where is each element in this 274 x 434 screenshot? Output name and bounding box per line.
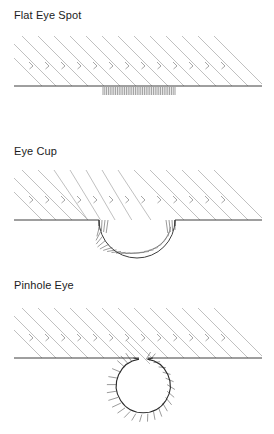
photoreceptor-layer-cup — [96, 220, 175, 254]
eye-evolution-diagram: Flat Eye Spot — [0, 0, 274, 434]
eye-cup-illustration — [0, 134, 274, 268]
photoreceptor-layer-chamber — [107, 352, 175, 422]
panel-eye-cup: Eye Cup — [0, 134, 274, 268]
panel-flat-eye-spot: Flat Eye Spot — [0, 0, 274, 134]
flat-eye-spot-illustration — [0, 0, 274, 134]
light-ray-field — [14, 308, 262, 358]
pinhole-eye-illustration — [0, 268, 274, 434]
panel-pinhole-eye: Pinhole Eye — [0, 268, 274, 434]
photoreceptor-patch — [103, 87, 175, 95]
light-ray-field — [14, 36, 262, 86]
eye-cup-outline — [14, 220, 262, 258]
light-ray-field — [14, 170, 262, 256]
